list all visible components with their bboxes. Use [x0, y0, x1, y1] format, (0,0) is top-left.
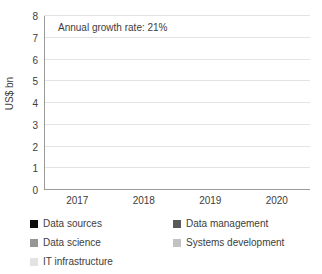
- legend-swatch-icon: [30, 220, 38, 228]
- y-tick-label: 8: [32, 11, 38, 22]
- y-tick-label: 6: [32, 54, 38, 65]
- legend-label: Systems development: [186, 237, 284, 248]
- bar-group[interactable]: 2018: [111, 16, 178, 190]
- legend-item[interactable]: Systems development: [173, 233, 316, 252]
- legend-swatch-icon: [30, 239, 38, 247]
- y-tick-label: 5: [32, 76, 38, 87]
- x-tick-label: 2019: [199, 195, 221, 206]
- legend-swatch-icon: [173, 239, 181, 247]
- y-tick-label: 0: [32, 185, 38, 196]
- y-tick-label: 4: [32, 98, 38, 109]
- x-tick-label: 2020: [266, 195, 288, 206]
- y-tick-label: 1: [32, 163, 38, 174]
- chart-legend: Data sourcesData managementData scienceS…: [30, 214, 316, 271]
- legend-swatch-icon: [173, 220, 181, 228]
- y-tick-label: 2: [32, 141, 38, 152]
- legend-item[interactable]: Data management: [173, 214, 316, 233]
- plot-area: 012345678 Annual growth rate: 21% 201720…: [44, 16, 310, 190]
- x-tick-label: 2017: [66, 195, 88, 206]
- y-tick-label: 3: [32, 119, 38, 130]
- legend-item[interactable]: Data sources: [30, 214, 173, 233]
- bar-group[interactable]: 2017: [44, 16, 111, 190]
- y-tick-label: 7: [32, 32, 38, 43]
- legend-label: Data sources: [43, 218, 102, 229]
- stacked-bar-chart: US$ bn 012345678 Annual growth rate: 21%…: [0, 0, 322, 274]
- legend-label: Data science: [43, 237, 101, 248]
- x-tick-label: 2018: [133, 195, 155, 206]
- bar-group[interactable]: 2020: [244, 16, 311, 190]
- legend-label: IT infrastructure: [43, 256, 113, 267]
- y-axis-title: US$ bn: [4, 64, 15, 124]
- bars-layer: 2017201820192020: [44, 16, 310, 190]
- bar-group[interactable]: 2019: [177, 16, 244, 190]
- legend-item[interactable]: IT infrastructure: [30, 252, 173, 271]
- legend-label: Data management: [186, 218, 268, 229]
- legend-item[interactable]: Data science: [30, 233, 173, 252]
- legend-swatch-icon: [30, 258, 38, 266]
